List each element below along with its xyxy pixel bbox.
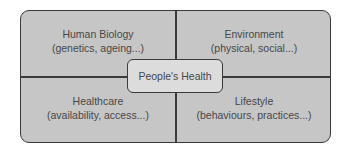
center-label: People's Health: [138, 70, 211, 82]
quadrant-title: Healthcare: [21, 94, 175, 108]
quadrant-healthcare: Healthcare (availability, access...): [21, 94, 175, 122]
quadrant-human-biology: Human Biology (genetics, ageing...): [21, 27, 175, 55]
quadrant-lifestyle: Lifestyle (behaviours, practices...): [177, 94, 331, 122]
quadrant-title: Lifestyle: [177, 94, 331, 108]
quadrant-subtitle: (availability, access...): [21, 108, 175, 122]
quadrant-title: Human Biology: [21, 27, 175, 41]
quadrant-subtitle: (genetics, ageing...): [21, 41, 175, 55]
quadrant-title: Environment: [177, 27, 331, 41]
quadrant-subtitle: (behaviours, practices...): [177, 108, 331, 122]
quadrant-environment: Environment (physical, social...): [177, 27, 331, 55]
center-node-peoples-health: People's Health: [127, 59, 223, 93]
quadrant-subtitle: (physical, social...): [177, 41, 331, 55]
